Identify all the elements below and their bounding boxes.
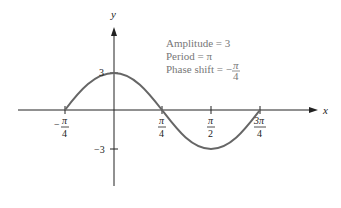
annotation-phase: Phase shift = − <box>166 63 232 75</box>
x-label-pi4-num: π <box>159 115 165 126</box>
y-axis-arrow-icon <box>111 27 117 36</box>
annotation-period: Period = π <box>166 50 212 62</box>
x-label-3pi4-den: 4 <box>257 128 262 139</box>
x-label-neg-den: 4 <box>62 128 67 139</box>
x-label-pi4-den: 4 <box>159 128 164 139</box>
y-label-3: 3 <box>99 67 104 78</box>
x-axis-label: x <box>322 104 328 116</box>
x-label-pi2-num: π <box>208 115 214 126</box>
x-label-pi2-den: 2 <box>208 128 213 139</box>
annotation-phase-den: 4 <box>233 70 239 82</box>
y-axis-label: y <box>110 8 116 20</box>
y-label-neg3: −3 <box>94 144 105 155</box>
plot-area: y x 3 −3 − π 4 π 4 π 2 3π 4 Amplitude = … <box>0 0 341 208</box>
x-label-3pi4-num: 3π <box>253 115 265 126</box>
x-label-neg-num: π <box>62 115 68 126</box>
annotation-amplitude: Amplitude = 3 <box>166 37 231 49</box>
x-axis-arrow-icon <box>309 107 318 113</box>
x-label-neg-sign: − <box>54 119 60 130</box>
chart: y x 3 −3 − π 4 π 4 π 2 3π 4 Amplitude = … <box>0 0 341 208</box>
